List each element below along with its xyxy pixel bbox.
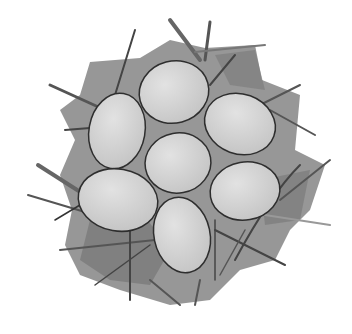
nest-illustration <box>0 0 352 334</box>
